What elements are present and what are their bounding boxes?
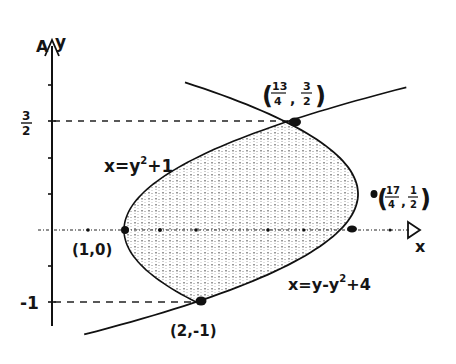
label-point-13-4-3-2: ( 13 4 , 3 2 ) bbox=[262, 80, 326, 110]
svg-text:2: 2 bbox=[410, 199, 417, 210]
point-4-0 bbox=[347, 226, 357, 233]
svg-text:,: , bbox=[290, 91, 295, 107]
svg-text:2: 2 bbox=[22, 124, 30, 138]
svg-text:): ) bbox=[315, 82, 326, 110]
label-point-1-0: (1,0) bbox=[72, 241, 112, 259]
svg-text:4: 4 bbox=[388, 199, 395, 210]
point-2-minus1 bbox=[196, 297, 207, 306]
equation-label-left: x=y2+1 bbox=[104, 155, 173, 176]
svg-text:,: , bbox=[401, 194, 406, 209]
svg-text:17: 17 bbox=[386, 185, 400, 196]
svg-text:3: 3 bbox=[303, 80, 311, 93]
y-tick-label-three-halves: 3 2 bbox=[21, 109, 32, 138]
svg-text:): ) bbox=[420, 185, 431, 213]
y-axis-label: y bbox=[55, 32, 66, 52]
x-axis-label: x bbox=[415, 237, 426, 256]
region-diagram: A y x 3 2 -1 x=y2+1 x=y-y2+4 (1,0) (2,-1… bbox=[0, 0, 456, 364]
svg-text:4: 4 bbox=[274, 95, 282, 108]
svg-text:1: 1 bbox=[410, 185, 417, 196]
svg-text:3: 3 bbox=[22, 109, 30, 123]
svg-text:x=y2+1: x=y2+1 bbox=[104, 155, 173, 176]
x-axis-arrow-icon bbox=[408, 222, 420, 238]
point-13-4-3-2 bbox=[289, 118, 301, 127]
point-1-0 bbox=[121, 226, 129, 234]
svg-text:x=y-y2+4: x=y-y2+4 bbox=[288, 273, 371, 294]
y-axis-arrow-letter: A bbox=[36, 37, 49, 56]
label-point-17-4-1-2: ( 17 4 , 1 2 ) bbox=[377, 185, 431, 213]
y-axis bbox=[45, 40, 59, 326]
y-tick-label-minus-one: -1 bbox=[20, 293, 39, 313]
svg-text:13: 13 bbox=[272, 80, 287, 93]
label-point-2-minus1: (2,-1) bbox=[170, 322, 217, 340]
equation-label-right: x=y-y2+4 bbox=[288, 273, 371, 294]
svg-text:2: 2 bbox=[303, 95, 311, 108]
